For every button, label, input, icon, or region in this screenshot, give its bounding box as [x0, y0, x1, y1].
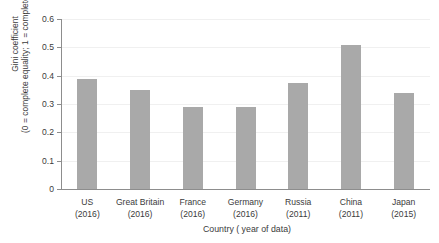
x-axis-title-text: Country ( year of data)	[203, 224, 291, 234]
y-tick-label: 0	[49, 184, 54, 194]
bar	[130, 90, 150, 189]
y-tick-label: 0.3	[42, 99, 54, 109]
y-tick-label: 0.4	[42, 71, 54, 81]
gridline	[62, 19, 430, 20]
x-axis-line	[61, 189, 430, 190]
x-category-name: Japan	[369, 196, 439, 208]
y-tick-mark	[57, 161, 61, 162]
y-tick-label: 0.1	[42, 156, 54, 166]
bar	[77, 79, 97, 190]
y-tick-label: 0.6	[42, 14, 54, 24]
y-tick-mark	[57, 76, 61, 77]
y-tick-label: 0.2	[42, 127, 54, 137]
y-axis-title-line2: (0 = complete equality; 1 = complete ine…	[20, 0, 31, 133]
x-category-label: Japan(2015)	[369, 196, 439, 220]
gridline	[62, 76, 430, 77]
bar	[183, 107, 203, 189]
bar-chart: Gini coefficient (0 = complete equality;…	[0, 0, 439, 243]
gridline	[62, 104, 430, 105]
y-axis-title-line1: Gini coefficient	[10, 16, 21, 72]
y-tick-mark	[57, 47, 61, 48]
y-tick-mark	[57, 189, 61, 190]
x-axis-title: Country ( year of data)	[0, 224, 439, 234]
y-tick-mark	[57, 132, 61, 133]
bar	[394, 93, 414, 189]
y-tick-label: 0.5	[42, 42, 54, 52]
bar	[341, 45, 361, 190]
gridline	[62, 47, 430, 48]
y-tick-mark	[57, 19, 61, 20]
y-tick-mark	[57, 104, 61, 105]
plot-area: 00.10.20.30.40.50.6	[61, 19, 430, 190]
y-axis-title: Gini coefficient (0 = complete equality;…	[2, 0, 38, 144]
x-category-year: (2015)	[369, 208, 439, 220]
bar	[236, 107, 256, 189]
bar	[288, 83, 308, 189]
